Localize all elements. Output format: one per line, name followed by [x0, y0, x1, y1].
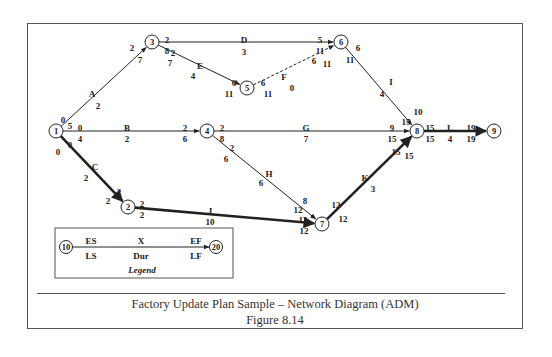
activity-arrow-i: [346, 47, 412, 125]
figure-number: Figure 8.14: [27, 313, 523, 328]
activity-l-ls: 15: [426, 134, 436, 144]
legend-start-node-label: 10: [62, 242, 71, 252]
activity-c-es: 0: [56, 147, 61, 157]
activity-c-ef: 2: [117, 187, 122, 197]
activity-f-lf: 11: [323, 59, 332, 69]
activity-e-es: 2: [171, 48, 176, 58]
activity-g-lf: 15: [388, 134, 398, 144]
activity-a-ef: 2: [130, 43, 135, 53]
activity-i-ef: 10: [414, 107, 424, 117]
activity-j-ls: 2: [140, 210, 145, 220]
activity-c-dur: 2: [84, 173, 89, 183]
activity-d-dur: 3: [242, 47, 247, 57]
caption-divider: [37, 293, 505, 294]
activity-e-name: E: [197, 61, 203, 71]
activity-b-dur: 2: [125, 134, 130, 144]
activity-e-ef: 6: [232, 78, 237, 88]
activity-f-name: F: [281, 72, 287, 82]
activity-a-name: A: [89, 89, 96, 99]
activity-g-es: 2: [220, 123, 225, 133]
activity-c-name: C: [92, 162, 99, 172]
event-node-label: 9: [492, 126, 496, 136]
activity-j-lf: 12: [300, 226, 310, 236]
activity-h-ef: 8: [303, 196, 308, 206]
activity-i-dur: 4: [380, 89, 385, 99]
activity-b-name: B: [124, 123, 130, 133]
activity-h-es: 2: [230, 143, 235, 153]
activity-b-ls: 4: [78, 134, 83, 144]
activity-e-ls: 7: [168, 58, 173, 68]
activity-h-name: H: [265, 169, 272, 179]
activity-j-es: 2: [140, 199, 145, 209]
activity-c-ls: 0: [68, 140, 73, 150]
activity-j-ef: 12: [299, 215, 309, 225]
activity-a-ls: 5: [68, 121, 73, 131]
activity-k-dur: 3: [371, 184, 376, 194]
activity-k-ls: 12: [339, 214, 349, 224]
activity-f-ef: 6: [312, 56, 317, 66]
activity-b-es: 0: [78, 123, 83, 133]
figure-title: Factory Update Plan Sample – Network Dia…: [27, 297, 523, 312]
activity-b-lf: 6: [183, 134, 188, 144]
activity-f-es: 6: [261, 78, 266, 88]
legend-end-node-label: 20: [212, 242, 221, 252]
legend-activity: X: [138, 236, 145, 246]
activity-h-ls: 6: [224, 154, 229, 164]
activity-a-lf: 7: [138, 55, 143, 65]
activity-k-name: K: [361, 173, 368, 183]
legend: 10 20 ES LS X Dur EF LF Legend: [55, 228, 233, 278]
event-node-label: 8: [415, 126, 419, 136]
activity-f-dur: 0: [290, 83, 295, 93]
event-node-label: 3: [150, 37, 154, 47]
activity-l-name: L: [447, 123, 453, 133]
event-nodes: 123456789: [49, 35, 501, 231]
activity-a-es: 0: [61, 115, 66, 125]
event-node-label: 2: [126, 202, 130, 212]
event-node-label: 6: [339, 37, 343, 47]
activity-k-es: 12: [332, 200, 342, 210]
activity-g-dur: 7: [304, 134, 309, 144]
event-node-label: 1: [54, 126, 58, 136]
legend-lf: LF: [190, 251, 202, 261]
activity-d-name: D: [241, 35, 248, 45]
activity-k-lf: 15: [405, 151, 415, 161]
activity-j-dur: 10: [206, 217, 216, 227]
activity-l-lf: 19: [467, 134, 477, 144]
activity-d-ls: 8: [165, 46, 170, 56]
activity-h-dur: 6: [259, 178, 264, 188]
activity-k-ef: 15: [392, 147, 402, 157]
activity-b-ef: 2: [183, 123, 188, 133]
legend-title: Legend: [127, 265, 156, 275]
activity-i-ls: 11: [346, 55, 355, 65]
activity-f-ls: 11: [264, 89, 273, 99]
activity-d-ef: 5: [318, 35, 323, 45]
legend-duration: Dur: [133, 251, 149, 261]
legend-ef: EF: [190, 236, 202, 246]
activity-i-lf: 15: [402, 117, 412, 127]
event-node-label: 5: [245, 83, 249, 93]
activity-arrow-j: [135, 208, 314, 224]
activity-arrow-a: [61, 47, 146, 126]
activity-d-es: 2: [165, 35, 170, 45]
activity-l-ef: 19: [467, 123, 477, 133]
activity-g-name: G: [302, 123, 309, 133]
activity-j-name: J: [208, 206, 213, 216]
activity-l-dur: 4: [448, 134, 453, 144]
activity-l-es: 15: [426, 123, 436, 133]
activity-g-ls: 8: [220, 134, 225, 144]
activity-i-name: I: [389, 77, 393, 87]
activity-d-lf: 11: [316, 46, 325, 56]
activity-e-dur: 4: [191, 71, 196, 81]
legend-es: ES: [85, 236, 96, 246]
activity-a-dur: 2: [96, 101, 101, 111]
activity-h-lf: 12: [294, 205, 304, 215]
legend-ls: LS: [85, 251, 96, 261]
activity-c-lf: 2: [106, 196, 111, 206]
activity-e-lf: 11: [225, 89, 234, 99]
activity-g-ef: 9: [390, 123, 395, 133]
activity-i-es: 6: [356, 43, 361, 53]
